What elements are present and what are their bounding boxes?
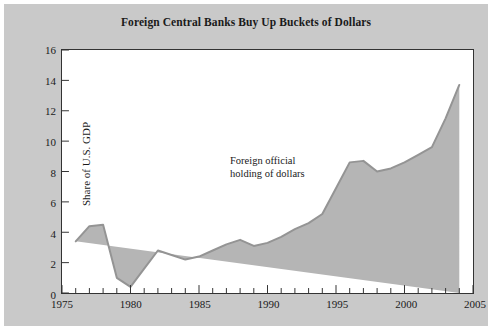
figure-panel: Foreign Central Banks Buy Up Buckets of … [4, 4, 488, 326]
x-tick-label: 1985 [189, 298, 211, 310]
y-axis-label: Share of U.S. GDP [80, 74, 92, 254]
x-tick-label: 2000 [395, 298, 417, 310]
y-tick-label: 8 [51, 167, 57, 179]
y-tick-label: 2 [51, 258, 57, 270]
annotation-line-1: Foreign official [230, 154, 305, 167]
y-tick-label: 4 [51, 228, 57, 240]
area-fill-foreign-official-holdings [76, 85, 460, 293]
area-series-group [76, 85, 460, 293]
x-tick-label: 1995 [326, 298, 348, 310]
y-tick-label: 10 [45, 136, 56, 148]
x-tick-label: 2005 [464, 298, 486, 310]
series-annotation: Foreign official holding of dollars [230, 154, 305, 181]
y-tick-label: 12 [45, 105, 56, 117]
x-tick-label: 1975 [51, 298, 73, 310]
x-tick-label: 1980 [120, 298, 142, 310]
y-tick-label: 6 [51, 197, 57, 209]
y-tick-label: 14 [45, 75, 56, 87]
annotation-line-2: holding of dollars [230, 167, 305, 180]
plot-area: Share of U.S. GDP 0246810121416 19751980… [61, 49, 474, 294]
x-tick-label: 1990 [258, 298, 280, 310]
chart-title: Foreign Central Banks Buy Up Buckets of … [4, 16, 488, 28]
y-tick-label: 16 [45, 44, 56, 56]
